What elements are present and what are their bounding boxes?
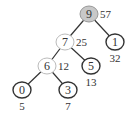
huffman-tree: 9577251326125130537 [0,0,136,118]
node-label: 9 [86,7,92,21]
tree-node-0: 05 [13,82,31,112]
node-weight: 12 [58,60,69,72]
node-label: 6 [44,59,50,73]
tree-node-9: 957 [80,6,112,22]
node-weight: 5 [19,100,25,112]
tree-node-1: 132 [106,34,124,64]
tree-node-6: 612 [38,58,69,74]
node-weight: 57 [100,8,112,20]
tree-node-3: 37 [59,82,77,112]
node-label: 1 [112,35,118,49]
nodes: 9577251326125130537 [13,6,124,112]
node-label: 5 [88,59,94,73]
node-weight: 25 [76,36,88,48]
node-label: 0 [19,83,25,97]
node-label: 3 [65,83,71,97]
node-label: 7 [62,35,68,49]
node-weight: 13 [86,76,98,88]
edges [22,14,115,90]
node-weight: 32 [110,52,121,64]
tree-node-5: 513 [82,58,100,88]
node-weight: 7 [65,100,71,112]
tree-node-7: 725 [56,34,88,50]
